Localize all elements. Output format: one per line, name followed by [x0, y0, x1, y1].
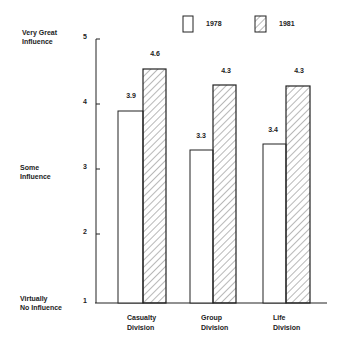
- value-label-group-1978: 3.3: [186, 132, 216, 139]
- category-label-group: Group Division: [201, 313, 228, 333]
- y-ticks: [96, 39, 100, 234]
- bar-group-1981: [213, 85, 236, 303]
- legend-swatch-1978: [183, 16, 193, 32]
- y-tick-label-3: 3: [83, 163, 87, 170]
- value-label-life-1981: 4.3: [284, 67, 314, 74]
- y-tick-label-1: 1: [83, 297, 87, 304]
- bar-life-1978: [263, 144, 286, 303]
- y-anchor-label-virtually-none: Virtually No Influence: [20, 294, 62, 312]
- category-label-casualty: Casualty Division: [127, 313, 156, 333]
- bar-casualty-1978: [118, 111, 143, 303]
- value-label-casualty-1981: 4.6: [140, 50, 170, 57]
- value-label-group-1981: 4.3: [211, 67, 241, 74]
- bar-casualty-1981: [143, 69, 166, 303]
- bar-group-1978: [190, 150, 213, 303]
- y-anchor-label-very-great: Very Great Influence: [22, 28, 57, 46]
- value-label-life-1978: 3.4: [258, 126, 288, 133]
- y-tick-label-2: 2: [83, 228, 87, 235]
- legend-label-1978: 1978: [206, 20, 222, 27]
- y-tick-label-4: 4: [83, 98, 87, 105]
- legend-swatch-1981: [255, 16, 266, 32]
- y-tick-label-5: 5: [83, 33, 87, 40]
- y-anchor-label-some: Some Influence: [20, 163, 51, 181]
- bar-life-1981: [286, 86, 310, 303]
- value-label-casualty-1978: 3.9: [116, 92, 146, 99]
- category-label-life: Life Division: [273, 313, 300, 333]
- legend-label-1981: 1981: [279, 20, 295, 27]
